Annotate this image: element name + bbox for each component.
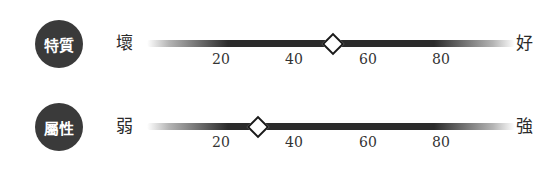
value-marker-trait[interactable]	[322, 33, 345, 56]
scale-row-trait: 特質 壞 好 20 40 60 80	[0, 13, 554, 73]
badge-trait-label: 特質	[44, 34, 74, 55]
tick-80: 80	[432, 134, 450, 150]
tick-80: 80	[432, 51, 450, 67]
badge-attribute-label: 屬性	[44, 117, 74, 138]
right-label-strong: 強	[516, 112, 533, 137]
tick-40: 40	[285, 134, 303, 150]
tick-60: 60	[359, 134, 377, 150]
right-label-good: 好	[516, 29, 533, 54]
badge-trait: 特質	[35, 20, 83, 68]
tick-40: 40	[285, 51, 303, 67]
value-marker-attribute[interactable]	[247, 116, 270, 139]
tick-20: 20	[212, 51, 230, 67]
scale-row-attribute: 屬性 弱 強 20 40 60 80	[0, 96, 554, 156]
left-label-bad: 壞	[116, 29, 133, 54]
badge-attribute: 屬性	[35, 103, 83, 151]
tick-60: 60	[359, 51, 377, 67]
left-label-weak: 弱	[116, 112, 133, 137]
tick-20: 20	[212, 134, 230, 150]
scale-bar-attribute	[147, 123, 515, 130]
